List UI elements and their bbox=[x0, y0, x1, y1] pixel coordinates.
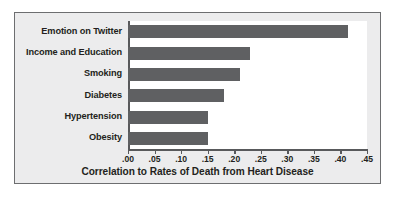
bar-row bbox=[128, 89, 367, 102]
bar-row bbox=[128, 132, 367, 145]
x-axis-tick-label: .35 bbox=[301, 154, 327, 164]
bar-row bbox=[128, 68, 367, 81]
bar bbox=[128, 89, 224, 102]
category-label: Obesity bbox=[14, 132, 122, 142]
x-axis-tick-label: .25 bbox=[248, 154, 274, 164]
x-axis-tick-label: .40 bbox=[327, 154, 353, 164]
x-axis-tick-label: .20 bbox=[221, 154, 247, 164]
bar bbox=[128, 25, 348, 38]
category-label: Income and Education bbox=[14, 47, 122, 57]
bar bbox=[128, 111, 208, 124]
bar bbox=[128, 68, 240, 81]
x-axis-tick-label: .15 bbox=[195, 154, 221, 164]
x-axis-tick-label: .00 bbox=[115, 154, 141, 164]
value-axis-line bbox=[128, 149, 367, 151]
category-axis-line bbox=[128, 21, 130, 149]
category-label: Diabetes bbox=[14, 90, 122, 100]
chart-figure-panel: Emotion on TwitterIncome and EducationSm… bbox=[14, 12, 381, 184]
x-axis-tick-label: .05 bbox=[142, 154, 168, 164]
bar-row bbox=[128, 111, 367, 124]
category-label: Emotion on Twitter bbox=[14, 26, 122, 36]
category-label: Smoking bbox=[14, 68, 122, 78]
bar-row bbox=[128, 25, 367, 38]
plot-area bbox=[128, 21, 367, 149]
x-axis-title: Correlation to Rates of Death from Heart… bbox=[15, 166, 380, 177]
x-axis-tick-label: .10 bbox=[168, 154, 194, 164]
bar bbox=[128, 47, 250, 60]
category-label: Hypertension bbox=[14, 111, 122, 121]
x-axis-tick-label: .45 bbox=[354, 154, 380, 164]
bar-row bbox=[128, 47, 367, 60]
bar bbox=[128, 132, 208, 145]
x-axis-tick-label: .30 bbox=[274, 154, 300, 164]
